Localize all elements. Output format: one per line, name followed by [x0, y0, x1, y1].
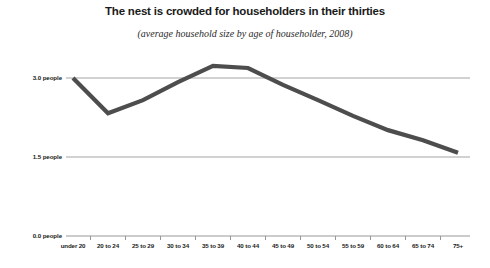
- gridlines-group: [66, 78, 470, 236]
- x-axis-tick-label: 25 to 29: [123, 242, 163, 249]
- x-axis-tick-label: 35 to 39: [193, 242, 233, 249]
- x-tick-marks-group: [91, 236, 441, 240]
- x-axis-tick-label: 50 to 54: [298, 242, 338, 249]
- x-axis-tick-label: 55 to 59: [333, 242, 373, 249]
- x-axis-tick-label: 20 to 24: [88, 242, 128, 249]
- y-axis-tick-label: 0.0 people: [8, 232, 62, 239]
- data-series-line: [73, 66, 458, 153]
- x-axis-tick-label: under 20: [53, 242, 93, 249]
- x-axis-tick-label: 40 to 44: [228, 242, 268, 249]
- y-axis-tick-label: 1.5 people: [8, 153, 62, 160]
- x-axis-tick-label: 45 to 49: [263, 242, 303, 249]
- x-axis-tick-label: 75+: [438, 242, 478, 249]
- y-axis-tick-label: 3.0 people: [8, 74, 62, 81]
- x-axis-tick-label: 30 to 34: [158, 242, 198, 249]
- chart-plot-area: [0, 0, 490, 268]
- chart-figure: The nest is crowded for householders in …: [0, 0, 490, 268]
- x-axis-tick-label: 65 to 74: [403, 242, 443, 249]
- x-axis-tick-label: 60 to 64: [368, 242, 408, 249]
